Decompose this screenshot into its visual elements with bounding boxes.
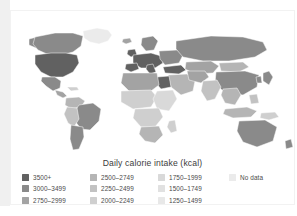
region-greenland — [83, 28, 112, 44]
region-papua-new-guinea — [260, 112, 279, 120]
region-north-africa — [121, 73, 159, 91]
legend-swatch-no-data — [229, 174, 236, 181]
legend-swatch — [90, 197, 97, 204]
legend-item[interactable]: 2000–2249 — [90, 195, 134, 205]
region-united-states — [35, 53, 79, 77]
legend-item-label: 1250–1499 — [169, 197, 202, 204]
region-peru-bolivia — [64, 107, 79, 127]
legend-item[interactable]: 2750–2999 — [22, 195, 66, 205]
legend-swatch — [90, 174, 97, 181]
region-new-zealand — [285, 139, 293, 149]
region-mexico — [41, 77, 61, 91]
region-brazil — [75, 103, 101, 130]
region-madagascar — [167, 120, 177, 133]
legend-item-label: 2250–2499 — [101, 185, 134, 192]
legend-swatch — [158, 174, 165, 181]
legend-item[interactable]: 3500+ — [22, 172, 66, 183]
region-southern-africa — [139, 126, 163, 143]
legend-item-label: 3500+ — [33, 174, 51, 181]
region-central-america — [55, 90, 67, 98]
region-indonesia — [223, 107, 257, 118]
region-central-africa — [133, 108, 163, 127]
page-left-edge-strip — [0, 0, 10, 206]
legend-item-label: 2500–2749 — [101, 174, 134, 181]
legend-item[interactable]: 2250–2499 — [90, 184, 134, 195]
region-iberia — [125, 63, 139, 72]
legend-swatch — [158, 197, 165, 204]
region-india — [201, 80, 221, 101]
region-canada — [33, 33, 83, 55]
legend-item-label: 2750–2999 — [33, 197, 66, 204]
map-legend: 3500+ 3000–3499 2750–2999 2500–2749 — [22, 172, 290, 205]
region-mongolia — [219, 62, 249, 72]
world-map-svg — [11, 17, 294, 157]
world-choropleth-map[interactable] — [11, 17, 294, 157]
legend-item[interactable]: 1500–1749 — [158, 184, 202, 195]
legend-swatch — [22, 197, 29, 204]
legend-item[interactable]: 3000–3499 — [22, 184, 66, 195]
legend-column-1: 3500+ 3000–3499 2750–2999 — [22, 172, 66, 205]
chart-title: Daily calorie intake (kcal) — [11, 158, 294, 168]
region-japan — [263, 71, 273, 85]
region-turkey — [163, 65, 186, 74]
legend-item-label: 3000–3499 — [33, 185, 66, 192]
region-southeast-asia — [221, 88, 241, 105]
legend-item-no-data[interactable]: No data — [229, 172, 263, 183]
screenshot-root: Daily calorie intake (kcal) 3500+ 3000–3… — [0, 0, 297, 216]
region-caribbean — [67, 87, 79, 91]
calorie-map-card: Daily calorie intake (kcal) 3500+ 3000–3… — [10, 10, 295, 205]
legend-swatch — [158, 185, 165, 192]
region-iceland — [122, 38, 132, 44]
legend-item-label: 1750–1999 — [169, 174, 202, 181]
region-korea — [256, 76, 262, 83]
region-australia — [237, 120, 277, 147]
legend-item[interactable]: 2500–2749 — [90, 172, 134, 183]
legend-item-label: 2000–2249 — [101, 197, 134, 204]
legend-column-3: 1750–1999 1500–1749 1250–1499 — [158, 172, 202, 205]
legend-item-label: No data — [240, 174, 263, 181]
legend-item-label: 1500–1749 — [169, 185, 202, 192]
legend-item[interactable]: 1250–1499 — [158, 195, 202, 205]
legend-swatch — [90, 185, 97, 192]
legend-item[interactable]: 1750–1999 — [158, 172, 202, 183]
legend-column-4: No data — [229, 172, 263, 184]
legend-swatch — [22, 174, 29, 181]
legend-column-2: 2500–2749 2250–2499 2000–2249 — [90, 172, 134, 205]
region-philippines — [249, 94, 259, 104]
region-west-africa — [121, 90, 157, 109]
region-scandinavia — [141, 36, 158, 51]
legend-swatch — [22, 185, 29, 192]
region-argentina-chile — [70, 125, 84, 150]
region-russia — [176, 36, 267, 61]
